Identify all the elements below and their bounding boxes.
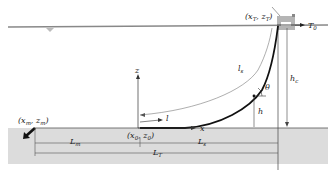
tension-label: T0: [308, 21, 317, 31]
ls-arc-arrowhead: [140, 113, 145, 117]
x-axis-label: x: [200, 124, 205, 133]
z-axis-label: z: [134, 66, 140, 75]
anchor-label: (xm, zm): [18, 116, 49, 126]
seabed: [8, 128, 328, 164]
top-point-label: (xT, zT): [245, 12, 272, 22]
vessel-flag: [292, 14, 295, 17]
l-arrowhead: [158, 118, 163, 122]
mooring-diagram: (xT, zT) T0 ls θ h hc z x l (x0, z0) (xm…: [0, 0, 328, 171]
l-arrow: [140, 120, 160, 122]
hc-label: hc: [290, 74, 298, 84]
ls-label: ls: [238, 64, 244, 74]
origin-label: (x0, z0): [127, 131, 154, 141]
h-label: h: [258, 107, 263, 116]
tension-arrowhead: [300, 23, 305, 27]
l-label: l: [166, 114, 169, 123]
water-level-icon: [46, 28, 54, 32]
theta-label: θ: [265, 83, 270, 92]
vessel-crane: [272, 7, 280, 16]
hc-arrowhead: [285, 122, 289, 127]
